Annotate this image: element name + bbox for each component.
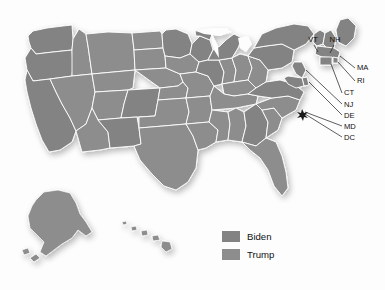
state-WY[interactable] bbox=[92, 70, 135, 92]
legend-label-biden: Biden bbox=[247, 231, 272, 242]
leader-RI bbox=[338, 62, 355, 81]
state-NJ[interactable] bbox=[292, 62, 306, 78]
leader-MD bbox=[305, 112, 342, 126]
legend: Biden Trump bbox=[222, 231, 274, 260]
state-MT[interactable] bbox=[86, 32, 135, 74]
inset-alaska[interactable] bbox=[22, 190, 92, 262]
state-WA[interactable] bbox=[28, 25, 73, 54]
state-OR[interactable] bbox=[25, 48, 73, 81]
state-TX[interactable] bbox=[134, 124, 198, 190]
callout-label-NH: NH bbox=[330, 35, 341, 44]
state-RI[interactable] bbox=[333, 57, 338, 63]
legend-swatch-trump bbox=[222, 249, 240, 260]
state-CT[interactable] bbox=[320, 57, 332, 65]
callout-label-DC: DC bbox=[344, 133, 355, 142]
state-ND[interactable] bbox=[132, 31, 163, 50]
legend-label-trump: Trump bbox=[247, 249, 274, 260]
callout-label-MA: MA bbox=[357, 63, 369, 72]
state-MA[interactable] bbox=[315, 46, 340, 58]
leader-MA bbox=[340, 56, 355, 68]
inset-hawaii[interactable] bbox=[122, 221, 172, 252]
leader-DE bbox=[309, 82, 342, 115]
callout-label-VT: VT bbox=[308, 35, 318, 44]
state-AR[interactable] bbox=[186, 96, 212, 124]
callout-label-RI: RI bbox=[357, 76, 365, 85]
callout-label-MD: MD bbox=[344, 122, 356, 131]
callout-label-CT: CT bbox=[344, 88, 354, 97]
state-SD[interactable] bbox=[134, 48, 166, 70]
mainland-states-group bbox=[25, 18, 356, 196]
leader-CT bbox=[331, 64, 342, 93]
us-election-map: VT NH MA RI CT NJ DE MD DC Biden Trump bbox=[0, 0, 385, 290]
callout-label-NJ: NJ bbox=[344, 100, 353, 109]
state-FL[interactable] bbox=[242, 138, 288, 196]
callout-label-DE: DE bbox=[344, 111, 355, 120]
leader-NJ bbox=[306, 70, 342, 104]
legend-swatch-biden bbox=[222, 231, 240, 242]
state-MN[interactable] bbox=[162, 29, 192, 58]
lake-huron-erie bbox=[238, 36, 252, 52]
state-CO[interactable] bbox=[121, 88, 160, 118]
leader-DC bbox=[305, 114, 342, 137]
